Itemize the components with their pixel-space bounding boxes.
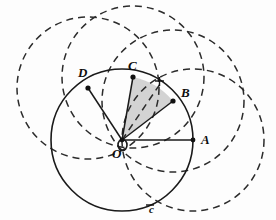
diagram-canvas: A B C D O c <box>0 0 276 220</box>
point-b-dot <box>170 98 175 103</box>
radius-od <box>88 88 122 140</box>
label-point-c: C <box>128 58 137 73</box>
point-c-dot <box>130 74 135 79</box>
label-circle-c: c <box>149 203 154 215</box>
label-point-d: D <box>77 65 88 80</box>
point-a-dot <box>191 138 196 143</box>
point-o-dot <box>120 138 125 143</box>
label-point-a: A <box>200 132 210 147</box>
point-d-dot <box>85 85 90 90</box>
label-point-o: O <box>112 146 122 161</box>
label-point-b: B <box>180 85 190 100</box>
circle-construction-diagram: A B C D O c <box>0 0 276 220</box>
